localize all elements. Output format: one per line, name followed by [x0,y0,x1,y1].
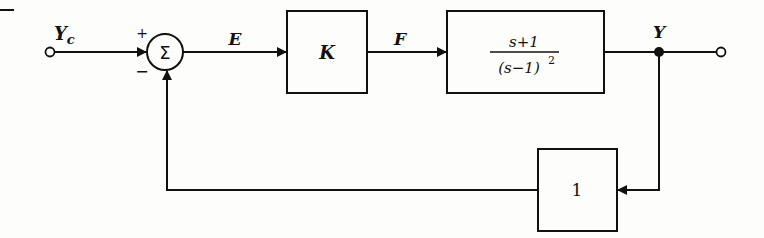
plant-numerator: s+1 [509,33,539,51]
sum-plus-sign: + [136,25,148,41]
input-terminal [46,48,55,57]
sum-symbol: Σ [159,42,170,63]
sum-minus-sign: − [135,62,148,81]
controller-label: K [318,42,336,63]
output-label: Y [653,22,667,42]
plant-denominator: (s−1) [498,59,540,77]
input-label: Yc [54,23,75,47]
plant-denominator-exponent: 2 [548,54,555,67]
output-terminal [717,48,726,57]
feedback-gain-label: 1 [572,180,583,200]
error-label: E [228,29,243,49]
block-diagram: Yc Σ + − E K F s+1 (s−1) 2 Y 1 [0,0,764,238]
control-signal-label: F [393,29,408,49]
feedback-arrow-in [618,52,659,190]
